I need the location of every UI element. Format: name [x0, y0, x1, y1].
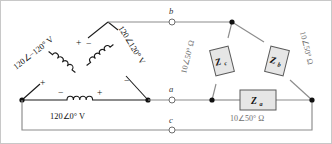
impedance-zb[interactable]	[265, 46, 290, 76]
impedance-zc-value: 10∠50° Ω	[179, 39, 196, 74]
impedance-zc-branch: Z c 10∠50° Ω	[179, 22, 234, 100]
terminal-b-ring[interactable]	[169, 19, 175, 25]
impedance-zb-value: 10∠50° Ω	[298, 30, 315, 65]
impedance-za-subscript: a	[260, 100, 263, 107]
source-ab-label: 120∠0° V	[50, 112, 85, 121]
terminal-c-label: c	[169, 115, 173, 125]
terminal-a-label: a	[169, 84, 173, 94]
source-ca-coil-symbol	[49, 49, 78, 73]
terminal-b-label: b	[169, 6, 174, 16]
circuit-diagram-canvas: − + 120∠−120° V + − 120∠120° V − + 120∠0…	[0, 0, 332, 144]
source-ca-label: 120∠−120° V	[12, 35, 56, 72]
source-ab-branch: − + 120∠0° V	[22, 88, 148, 121]
source-bc-polarity-plus: +	[76, 38, 81, 48]
impedance-za-value: 10∠50° Ω	[230, 114, 264, 123]
load-node-left	[209, 97, 214, 102]
circuit-schematic: − + 120∠−120° V + − 120∠120° V − + 120∠0…	[0, 0, 332, 144]
load-node-top	[229, 19, 234, 24]
terminal-c-ring[interactable]	[169, 127, 175, 133]
impedance-za-branch: Z a 10∠50° Ω	[212, 90, 312, 123]
source-ab-coil-symbol	[62, 96, 98, 100]
impedance-za-symbol: Z	[250, 95, 257, 106]
source-ca-polarity-plus: +	[40, 78, 45, 88]
load-node-right	[309, 97, 314, 102]
source-bc-label: 120∠120° V	[116, 24, 147, 66]
source-ab-polarity-plus: +	[97, 88, 102, 98]
source-bc-polarity-minus: −	[124, 76, 129, 86]
source-bc-branch: + − 120∠120° V	[76, 22, 148, 100]
source-ab-polarity-minus: −	[58, 88, 63, 98]
impedance-zc[interactable]	[210, 46, 235, 76]
impedance-za[interactable]: Z a	[240, 90, 276, 110]
source-ca-polarity-minus: −	[86, 39, 91, 49]
impedance-zb-branch: Z b 10∠50° Ω	[232, 22, 315, 100]
terminal-a-ring[interactable]	[169, 97, 175, 103]
